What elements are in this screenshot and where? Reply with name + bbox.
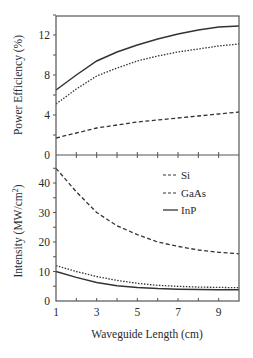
bottom-y-tick-label: 0 — [44, 295, 50, 307]
intensity-panel — [56, 168, 239, 289]
legend-inp-label: InP — [181, 204, 196, 216]
chart-figure: 0481201020304013579 Power Efficiency (%)… — [0, 0, 253, 358]
top-y-tick-label: 4 — [44, 109, 50, 121]
top-y-tick-label: 12 — [39, 29, 51, 41]
x-tick-label: 7 — [175, 306, 181, 318]
bottom-y-tick-label: 10 — [39, 266, 51, 278]
power-efficiency-panel — [56, 26, 239, 138]
series-si-line — [56, 112, 239, 138]
series-si-line — [56, 168, 239, 254]
top-y-tick-label: 0 — [44, 149, 50, 161]
legend: Si GaAs InP — [163, 169, 206, 216]
axis-ticks: 0481201020304013579 — [39, 15, 222, 318]
bottom-y-tick-label: 30 — [39, 207, 51, 219]
bottom-y-axis-label: Intensity (MW/cm2) — [11, 184, 25, 277]
legend-si-label: Si — [181, 169, 190, 181]
x-tick-label: 9 — [216, 306, 222, 318]
x-tick-label: 1 — [53, 306, 59, 318]
series-inp-line — [56, 272, 239, 290]
x-tick-label: 5 — [134, 306, 140, 318]
bottom-y-tick-label: 40 — [39, 177, 51, 189]
legend-gaas-label: GaAs — [181, 187, 206, 199]
bottom-y-tick-label: 20 — [39, 236, 51, 248]
x-axis-label: Waveguide Length (cm) — [91, 328, 203, 341]
top-y-tick-label: 8 — [44, 69, 50, 81]
top-y-axis-label: Power Efficiency (%) — [12, 35, 25, 135]
x-tick-label: 3 — [94, 306, 100, 318]
series-gaas-line — [56, 44, 239, 104]
series-gaas-line — [56, 266, 239, 288]
